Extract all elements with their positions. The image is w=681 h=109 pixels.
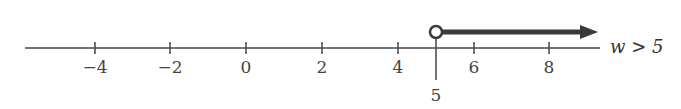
inequality-label: w > 5 — [610, 36, 663, 57]
tick-label: 8 — [544, 57, 555, 77]
tick-label: 6 — [469, 57, 480, 77]
number-line-diagram: −4 −2 0 2 4 6 8 5 w > 5 — [0, 0, 681, 109]
endpoint-label: 5 — [431, 85, 442, 105]
tick-label: −4 — [82, 57, 107, 77]
tick-label: 4 — [393, 57, 404, 77]
arrowhead-icon — [580, 25, 598, 39]
tick-label: 0 — [241, 57, 252, 77]
tick-label: 2 — [317, 57, 328, 77]
open-circle-endpoint — [430, 26, 442, 38]
tick-label: −2 — [157, 57, 182, 77]
